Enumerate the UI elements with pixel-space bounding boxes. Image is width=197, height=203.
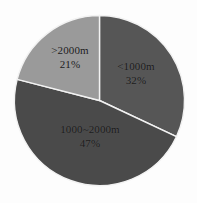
- pie-label-gt2000-percent: 21%: [34, 58, 106, 72]
- pie-label-lt1000-name: <1000m: [101, 60, 171, 74]
- pie-label-mid-name: 1000~2000m: [42, 123, 138, 137]
- pie-label-lt1000: <1000m 32%: [101, 60, 171, 87]
- pie-label-gt2000-name: >2000m: [34, 44, 106, 58]
- pie-label-gt2000: >2000m 21%: [34, 44, 106, 71]
- pie-label-mid-percent: 47%: [42, 137, 138, 151]
- pie-label-lt1000-percent: 32%: [101, 74, 171, 88]
- pie-chart: >2000m 21% <1000m 32% 1000~2000m 47%: [0, 0, 197, 203]
- pie-slices: [14, 16, 184, 186]
- pie-label-mid: 1000~2000m 47%: [42, 123, 138, 150]
- pie-chart-canvas: [0, 0, 197, 203]
